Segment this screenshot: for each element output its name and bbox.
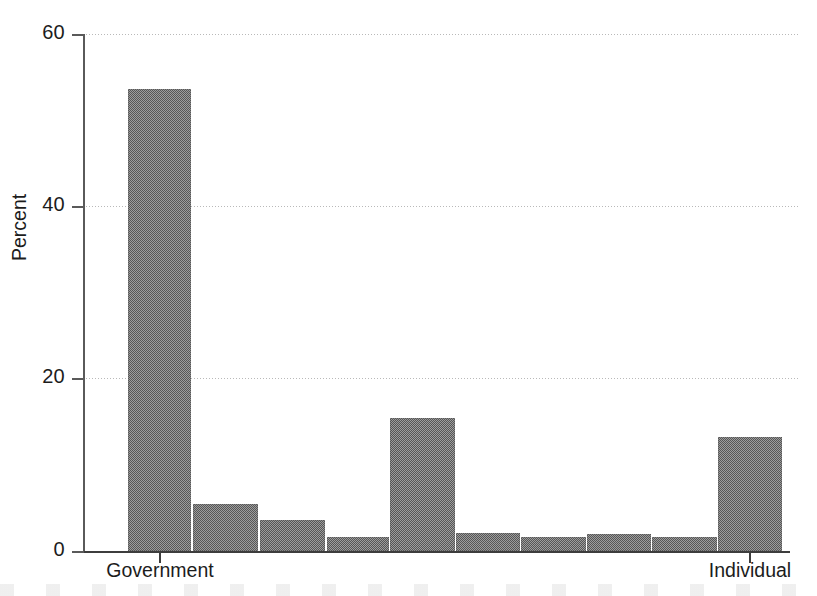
bar-1	[128, 89, 191, 551]
bar-7	[521, 537, 586, 551]
bar-chart-figure: 60 40 20 0 Percent Government Individual	[0, 0, 817, 596]
plot-area: 60 40 20 0 Percent Government Individual	[0, 0, 817, 596]
bar-2	[193, 504, 258, 551]
bar-5	[390, 418, 455, 551]
x-tick-label-government: Government	[106, 559, 213, 582]
bar-4	[327, 537, 389, 551]
bar-3	[260, 520, 325, 551]
scan-artifact-band	[0, 584, 817, 596]
y-tick-label-60: 60	[42, 21, 65, 44]
y-tick-mark-40	[72, 206, 84, 208]
y-tick-mark-20	[72, 378, 84, 380]
y-tick-label-0: 0	[54, 538, 65, 561]
y-tick-label-20: 20	[42, 365, 65, 388]
gridline-60	[83, 34, 800, 35]
y-tick-mark-0	[72, 551, 84, 553]
y-tick-label-40: 40	[42, 193, 65, 216]
y-tick-mark-60	[72, 34, 84, 36]
y-axis-title: Percent	[8, 231, 31, 261]
x-axis-line	[83, 551, 790, 553]
bar-6	[456, 533, 520, 551]
bar-8	[587, 534, 651, 551]
x-tick-label-individual: Individual	[709, 559, 791, 582]
bar-9	[652, 537, 717, 551]
bar-10	[718, 437, 782, 551]
y-axis-line	[83, 34, 85, 552]
